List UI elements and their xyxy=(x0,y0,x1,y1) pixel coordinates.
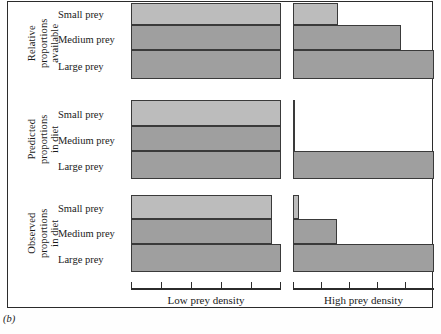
axis-tick xyxy=(161,282,162,288)
axis-tick xyxy=(432,282,433,288)
bar-relative-low-medium xyxy=(131,25,281,50)
category-label-small-prey: Small prey xyxy=(58,9,130,20)
bar-relative-high-large xyxy=(293,50,434,79)
axis-tick xyxy=(221,282,222,288)
bar-relative-low-large xyxy=(131,50,281,79)
category-label-large-prey: Large prey xyxy=(58,161,130,172)
bar-predicted-low-large xyxy=(131,151,281,179)
group-label-line: Predicted xyxy=(26,114,38,164)
axis-tick xyxy=(191,282,192,288)
bar-observed-low-small xyxy=(131,195,272,219)
axis-tick xyxy=(280,282,281,288)
bar-relative-low-small xyxy=(131,3,281,25)
bar-observed-low-medium xyxy=(131,219,272,244)
axis-high-prey-density xyxy=(293,288,434,290)
axis-tick xyxy=(251,282,252,288)
axis-label-high-prey-density: High prey density xyxy=(293,294,434,306)
bar-relative-high-medium xyxy=(293,25,401,50)
group-label-line: Observed xyxy=(26,208,38,258)
axis-low-prey-density xyxy=(131,288,281,290)
axis-tick xyxy=(405,282,406,288)
group-label-line: proportions xyxy=(37,18,49,68)
category-label-large-prey: Large prey xyxy=(58,61,130,72)
bar-observed-high-small xyxy=(293,195,299,219)
category-label-small-prey: Small prey xyxy=(58,109,130,120)
bar-predicted-low-medium xyxy=(131,126,281,151)
category-label-small-prey: Small prey xyxy=(58,203,130,214)
bar-observed-high-medium xyxy=(293,219,337,244)
bar-predicted-high-medium xyxy=(293,126,295,151)
bar-observed-high-large xyxy=(293,244,434,272)
category-label-medium-prey: Medium prey xyxy=(58,135,130,146)
figure-panel-b: Relative proportions available Small pre… xyxy=(0,0,441,334)
bar-observed-low-large xyxy=(131,244,281,272)
figure-caption: (b) xyxy=(3,313,15,324)
axis-tick xyxy=(377,282,378,288)
bar-predicted-high-large xyxy=(293,151,434,179)
bar-relative-high-small xyxy=(293,3,338,25)
category-label-medium-prey: Medium prey xyxy=(58,34,130,45)
axis-tick xyxy=(321,282,322,288)
bar-predicted-high-small xyxy=(293,100,295,126)
axis-tick xyxy=(131,282,132,288)
category-label-medium-prey: Medium prey xyxy=(58,228,130,239)
axis-tick xyxy=(349,282,350,288)
group-label-line: Relative xyxy=(26,18,38,68)
group-label-line: proportions xyxy=(37,114,49,164)
category-label-large-prey: Large prey xyxy=(58,254,130,265)
bar-predicted-low-small xyxy=(131,100,281,126)
group-label-line: proportions xyxy=(37,208,49,258)
axis-label-low-prey-density: Low prey density xyxy=(131,294,281,306)
axis-tick xyxy=(293,282,294,288)
